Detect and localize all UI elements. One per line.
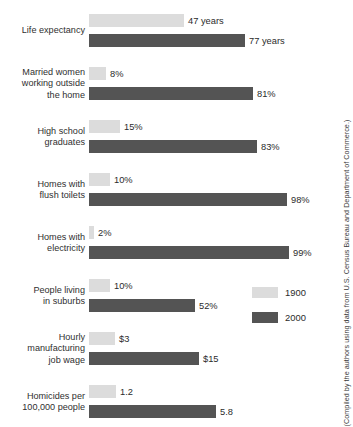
row-label: Homicides per 100,000 people xyxy=(0,391,89,413)
bar-value-2000: 98% xyxy=(287,195,310,205)
bar-value-1900: 2% xyxy=(94,228,111,238)
bar-2000 xyxy=(89,34,245,47)
bar-value-1900: 47 years xyxy=(184,16,224,26)
bar-group-2000: $15 xyxy=(89,352,219,365)
chart-legend: 1900 2000 xyxy=(252,286,326,336)
bar-group-2000: 5.8 xyxy=(89,405,233,418)
bar-group-1900: $3 xyxy=(89,332,129,345)
bar-2000 xyxy=(89,87,253,100)
row-label: People living in suburbs xyxy=(0,285,89,307)
source-note-text: (Compiled by the authors using data from… xyxy=(342,120,351,427)
bar-1900 xyxy=(89,120,120,133)
row-bars: 10% 98% xyxy=(89,168,330,212)
bar-1900 xyxy=(89,332,115,345)
bar-group-1900: 10% xyxy=(89,279,133,292)
row-label: Homes with flush toilets xyxy=(0,179,89,201)
bar-1900 xyxy=(89,385,116,398)
legend-item-2000: 2000 xyxy=(252,311,326,323)
bar-group-2000: 98% xyxy=(89,193,310,206)
table-row: High school graduates 15% 83% xyxy=(0,115,330,159)
table-row: Life expectancy 47 years 77 years xyxy=(0,9,330,53)
bar-value-2000: 81% xyxy=(253,89,276,99)
bar-value-2000: $15 xyxy=(199,354,219,364)
row-label: High school graduates xyxy=(0,126,89,148)
legend-label-1900: 1900 xyxy=(278,287,306,298)
row-bars: 15% 83% xyxy=(89,115,330,159)
table-row: Homicides per 100,000 people 1.2 5.8 xyxy=(0,380,330,424)
bar-2000 xyxy=(89,299,195,312)
bar-group-2000: 83% xyxy=(89,140,280,153)
bar-group-2000: 77 years xyxy=(89,34,285,47)
bar-group-2000: 52% xyxy=(89,299,218,312)
clipped-caption-strip xyxy=(12,420,342,427)
bar-value-1900: 15% xyxy=(120,122,143,132)
legend-swatch-1900-icon xyxy=(252,287,278,298)
bar-group-2000: 99% xyxy=(89,246,312,259)
row-bars: 8% 81% xyxy=(89,62,330,106)
bar-1900 xyxy=(89,14,184,27)
row-label: Married women working outside the home xyxy=(0,67,89,101)
bar-group-2000: 81% xyxy=(89,87,276,100)
bar-1900 xyxy=(89,67,106,80)
row-bars: 2% 99% xyxy=(89,221,330,265)
legend-label-2000: 2000 xyxy=(278,312,306,323)
bar-value-2000: 77 years xyxy=(245,36,285,46)
bar-value-1900: 10% xyxy=(110,175,133,185)
bar-value-2000: 83% xyxy=(257,142,280,152)
bar-value-1900: $3 xyxy=(115,334,129,344)
bar-group-1900: 47 years xyxy=(89,14,224,27)
chart-rows: Life expectancy 47 years 77 years Marrie… xyxy=(0,9,330,427)
bar-value-1900: 1.2 xyxy=(116,387,133,397)
bar-group-1900: 8% xyxy=(89,67,123,80)
bar-1900 xyxy=(89,173,110,186)
row-bars: 1.2 5.8 xyxy=(89,380,330,424)
row-label: Life expectancy xyxy=(0,25,89,36)
bar-group-1900: 1.2 xyxy=(89,385,133,398)
legend-swatch-2000-icon xyxy=(252,312,278,323)
bar-value-2000: 52% xyxy=(195,301,218,311)
comparison-bar-chart: Life expectancy 47 years 77 years Marrie… xyxy=(0,0,353,427)
bar-group-1900: 15% xyxy=(89,120,143,133)
table-row: Homes with electricity 2% 99% xyxy=(0,221,330,265)
bar-value-2000: 5.8 xyxy=(216,407,233,417)
bar-group-1900: 10% xyxy=(89,173,133,186)
row-bars: 47 years 77 years xyxy=(89,9,330,53)
table-row: Married women working outside the home 8… xyxy=(0,62,330,106)
bar-2000 xyxy=(89,140,257,153)
table-row: Homes with flush toilets 10% 98% xyxy=(0,168,330,212)
bar-value-1900: 10% xyxy=(110,281,133,291)
bar-2000 xyxy=(89,246,289,259)
bar-2000 xyxy=(89,193,287,206)
bar-1900 xyxy=(89,279,110,292)
row-label: Hourly manufacturing job wage xyxy=(0,332,89,366)
bar-2000 xyxy=(89,405,216,418)
bar-2000 xyxy=(89,352,199,365)
bar-group-1900: 2% xyxy=(89,226,111,239)
row-label: Homes with electricity xyxy=(0,232,89,254)
bar-value-2000: 99% xyxy=(289,248,312,258)
legend-item-1900: 1900 xyxy=(252,286,326,298)
bar-value-1900: 8% xyxy=(106,69,123,79)
source-note: (Compiled by the authors using data from… xyxy=(340,128,352,418)
